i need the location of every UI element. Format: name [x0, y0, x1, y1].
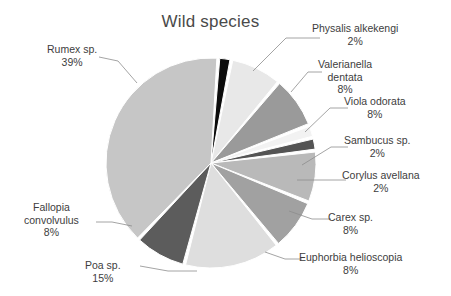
slice-label-percent: 2%: [344, 147, 411, 160]
slice-label-name: Euphorbia helioscopia: [299, 251, 402, 263]
slice-label-name: Physalis alkekengi: [312, 22, 398, 34]
slice-label-sambucus-sp: Sambucus sp. 2%: [344, 134, 411, 159]
slice-label-name-line2: convolvulus: [24, 214, 79, 227]
chart-title-text: Wild species: [162, 12, 260, 31]
slice-label-percent: 8%: [24, 226, 79, 239]
slice-label-corylus-avellana: Corylus avellana 2%: [342, 169, 420, 194]
pie-slices-group: [106, 58, 316, 268]
slice-label-carex-sp: Carex sp. 8%: [328, 211, 373, 236]
slice-label-rumex-sp: Rumex sp. 39%: [47, 43, 97, 68]
slice-label-name: Rumex sp.: [47, 43, 97, 55]
slice-label-name: Poa sp.: [85, 259, 121, 271]
slice-label-percent: 8%: [299, 264, 402, 277]
slice-label-valerianella-dentata: Valerianella dentata 8%: [318, 58, 372, 96]
leader-line-poa: [140, 266, 197, 271]
slice-label-name: Sambucus sp.: [344, 134, 411, 146]
slice-label-percent: 8%: [344, 108, 406, 121]
leader-line-viola: [305, 108, 348, 132]
slice-label-euphorbia-helioscopia: Euphorbia helioscopia 8%: [299, 251, 402, 276]
slice-label-percent: 15%: [85, 272, 121, 285]
slice-label-fallopia-convolvulus: Fallopia convolvulus 8%: [24, 201, 79, 239]
slice-label-name: Fallopia: [33, 201, 70, 213]
slice-label-name: Valerianella: [318, 58, 372, 70]
slice-label-percent: 8%: [318, 83, 372, 96]
slice-label-percent: 2%: [312, 35, 398, 48]
slice-label-name: Viola odorata: [344, 95, 406, 107]
leader-line-physalis: [253, 38, 320, 71]
leader-line-rumex: [99, 57, 137, 83]
slice-label-physalis-alkekengi: Physalis alkekengi 2%: [312, 22, 398, 47]
pie-chart-figure: Wild species Physalis alkekengi 2% Valer…: [0, 0, 451, 296]
slice-label-percent: 2%: [342, 182, 420, 195]
slice-label-percent: 8%: [328, 224, 373, 237]
slice-label-percent: 39%: [47, 56, 97, 69]
slice-label-name: Corylus avellana: [342, 169, 420, 181]
leader-line-euphorbia: [265, 252, 302, 259]
slice-label-poa-sp: Poa sp. 15%: [85, 259, 121, 284]
slice-label-name-line2: dentata: [318, 71, 372, 84]
slice-label-name: Carex sp.: [328, 211, 373, 223]
slice-label-viola-odorata: Viola odorata 8%: [344, 95, 406, 120]
